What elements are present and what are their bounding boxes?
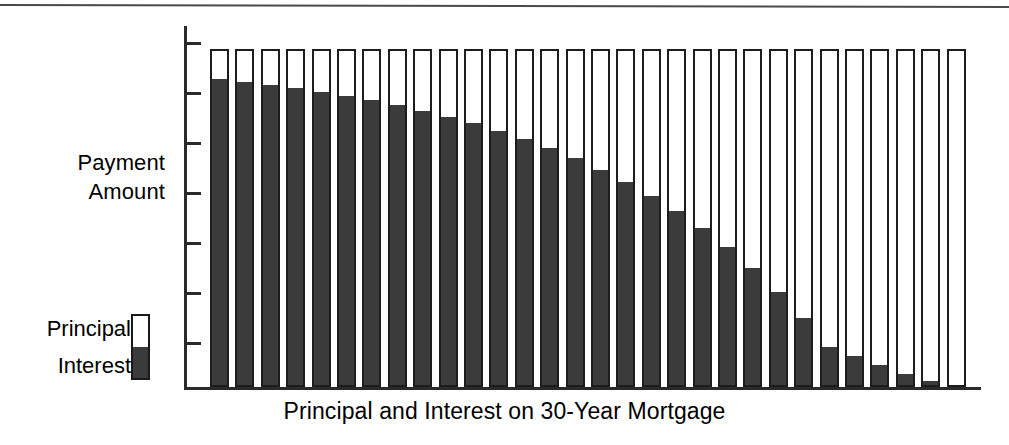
- bar-interest-segment: [339, 96, 354, 385]
- legend-swatch-interest-fill: [133, 347, 148, 378]
- bar-interest-segment: [618, 182, 633, 385]
- bar-interest-segment: [593, 170, 608, 385]
- bar: [718, 49, 737, 387]
- bar-interest-segment: [517, 139, 532, 385]
- bar: [794, 49, 813, 387]
- legend-item-principal-label: Principal: [13, 310, 131, 347]
- bar-interest-segment: [568, 158, 583, 385]
- y-axis-tick: [187, 292, 201, 295]
- bar: [845, 49, 864, 387]
- bar: [312, 49, 331, 387]
- legend-labels: Principal Interest: [13, 310, 131, 384]
- bar-interest-segment: [542, 148, 557, 385]
- bar-group: [210, 26, 984, 387]
- bar: [362, 49, 381, 387]
- bar: [566, 49, 585, 387]
- bar-interest-segment: [288, 88, 303, 385]
- bar-interest-segment: [415, 111, 430, 385]
- bar: [667, 49, 686, 387]
- bar-interest-segment: [695, 228, 710, 385]
- bar: [743, 49, 762, 387]
- chart-legend: Principal Interest: [10, 310, 156, 384]
- bar-interest-segment: [466, 123, 481, 385]
- bar: [591, 49, 610, 387]
- bar-interest-segment: [847, 356, 862, 385]
- bar-interest-segment: [237, 82, 252, 385]
- bar: [616, 49, 635, 387]
- mortgage-amortization-figure: Payment Amount Principal Interest Princi…: [0, 0, 1009, 445]
- bar: [870, 49, 889, 387]
- bar-interest-segment: [263, 85, 278, 385]
- y-axis-tick: [187, 242, 201, 245]
- bar-interest-segment: [364, 100, 379, 385]
- y-axis-tick: [187, 142, 201, 145]
- bar: [464, 49, 483, 387]
- bar: [540, 49, 559, 387]
- y-axis-tick: [187, 342, 201, 345]
- legend-swatch: [131, 314, 150, 380]
- y-axis-tick: [187, 42, 201, 45]
- bar: [515, 49, 534, 387]
- bar: [337, 49, 356, 387]
- bar-interest-segment: [796, 318, 811, 385]
- bar-interest-segment: [441, 117, 456, 385]
- bar: [439, 49, 458, 387]
- bar: [820, 49, 839, 387]
- bar: [693, 49, 712, 387]
- y-axis-tick: [187, 192, 201, 195]
- bar-interest-segment: [745, 268, 760, 385]
- y-axis-tick: [187, 92, 201, 95]
- bar-interest-segment: [669, 211, 684, 385]
- x-axis-line: [184, 387, 981, 390]
- legend-item-interest-label: Interest: [13, 347, 131, 384]
- bar-interest-segment: [491, 131, 506, 385]
- bar-interest-segment: [898, 374, 913, 385]
- top-divider-rule: [0, 4, 1009, 8]
- bar-interest-segment: [771, 292, 786, 385]
- bar: [261, 49, 280, 387]
- chart-caption: Principal and Interest on 30-Year Mortga…: [0, 398, 1009, 425]
- bar-interest-segment: [390, 105, 405, 385]
- bar-interest-segment: [923, 381, 938, 385]
- bar-interest-segment: [720, 247, 735, 385]
- bar: [388, 49, 407, 387]
- bar: [947, 49, 966, 387]
- y-axis-label: Payment Amount: [10, 148, 165, 206]
- bar-interest-segment: [822, 347, 837, 385]
- bar: [235, 49, 254, 387]
- bar-interest-segment: [314, 92, 329, 385]
- bar: [921, 49, 940, 387]
- bar: [896, 49, 915, 387]
- bar-interest-segment: [872, 365, 887, 385]
- bar: [413, 49, 432, 387]
- bar-interest-segment: [212, 79, 227, 385]
- bar: [489, 49, 508, 387]
- bar: [286, 49, 305, 387]
- bar: [210, 49, 229, 387]
- bar-interest-segment: [644, 196, 659, 385]
- bar: [769, 49, 788, 387]
- plot-area: [184, 26, 984, 390]
- bar: [642, 49, 661, 387]
- y-axis-line: [184, 26, 187, 390]
